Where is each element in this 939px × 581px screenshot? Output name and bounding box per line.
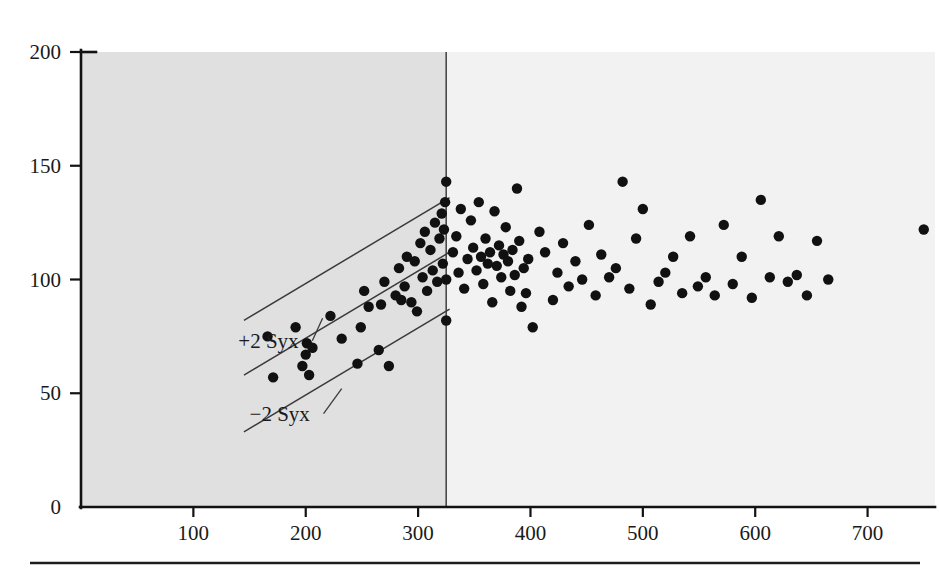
data-point [590,290,600,300]
data-point [503,256,513,266]
data-point [415,238,425,248]
scatter-chart: 050100150200 100200300400500600700 +2 Sy… [0,0,939,581]
data-point [783,277,793,287]
x-tick-label: 600 [739,521,771,545]
y-axis-ticks: 050100150200 [30,40,82,519]
data-point [428,265,438,275]
data-point [437,208,447,218]
data-point [919,224,929,234]
data-point [505,286,515,296]
data-point [453,267,463,277]
data-point [399,281,409,291]
data-point [379,277,389,287]
data-point [631,233,641,243]
y-tick-label: 150 [30,154,62,178]
y-tick-label: 200 [30,40,62,64]
data-point [577,274,587,284]
data-point [425,245,435,255]
data-point [719,220,729,230]
data-point [359,286,369,296]
data-point [492,261,502,271]
data-point [325,311,335,321]
data-point [441,315,451,325]
data-point [604,272,614,282]
data-point [420,227,430,237]
data-point [396,295,406,305]
data-point [617,176,627,186]
data-point [710,290,720,300]
data-point [462,254,472,264]
data-point [624,283,634,293]
data-point [422,286,432,296]
data-point [660,267,670,277]
data-point [356,322,366,332]
data-point [412,306,422,316]
data-point [510,270,520,280]
data-point [307,343,317,353]
data-point [438,258,448,268]
data-point [468,242,478,252]
data-point [584,220,594,230]
data-point [507,245,517,255]
data-point [540,247,550,257]
data-point [432,277,442,287]
y-tick-label: 50 [40,381,61,405]
data-point [384,361,394,371]
data-point [701,272,711,282]
data-point [496,272,506,282]
data-point [352,358,362,368]
data-point [646,299,656,309]
data-point [563,281,573,291]
figure-container: 050100150200 100200300400500600700 +2 Sy… [0,0,939,581]
x-tick-label: 300 [402,521,434,545]
data-point [570,256,580,266]
data-point [638,204,648,214]
data-point [483,258,493,268]
data-point [774,231,784,241]
data-point [653,277,663,287]
data-point [376,299,386,309]
x-tick-label: 400 [515,521,547,545]
data-point [485,247,495,257]
data-point [523,254,533,264]
annotation-label: +2 Syx [238,329,299,353]
data-point [489,206,499,216]
data-point [374,345,384,355]
data-point [823,274,833,284]
data-point [304,370,314,380]
data-point [439,224,449,234]
x-tick-label: 100 [178,521,210,545]
data-point [406,297,416,307]
y-tick-label: 0 [51,495,62,519]
data-point [430,217,440,227]
data-point [441,176,451,186]
data-point [501,222,511,232]
data-point [459,283,469,293]
data-point [765,272,775,282]
y-tick-label: 100 [30,268,62,292]
data-point [494,240,504,250]
data-point [434,233,444,243]
data-point [440,197,450,207]
data-point [363,302,373,312]
data-point [394,263,404,273]
data-point [528,322,538,332]
data-point [812,236,822,246]
data-point [478,279,488,289]
x-tick-label: 200 [290,521,322,545]
data-point [548,295,558,305]
data-point [456,204,466,214]
data-point [558,238,568,248]
data-point [448,247,458,257]
shaded-calibration-region [81,52,446,507]
data-point [596,249,606,259]
data-point [410,256,420,266]
data-point [268,372,278,382]
data-point [521,288,531,298]
data-point [441,274,451,284]
data-point [611,263,621,273]
data-point [480,233,490,243]
data-point [514,236,524,246]
data-point [552,267,562,277]
data-point [756,195,766,205]
